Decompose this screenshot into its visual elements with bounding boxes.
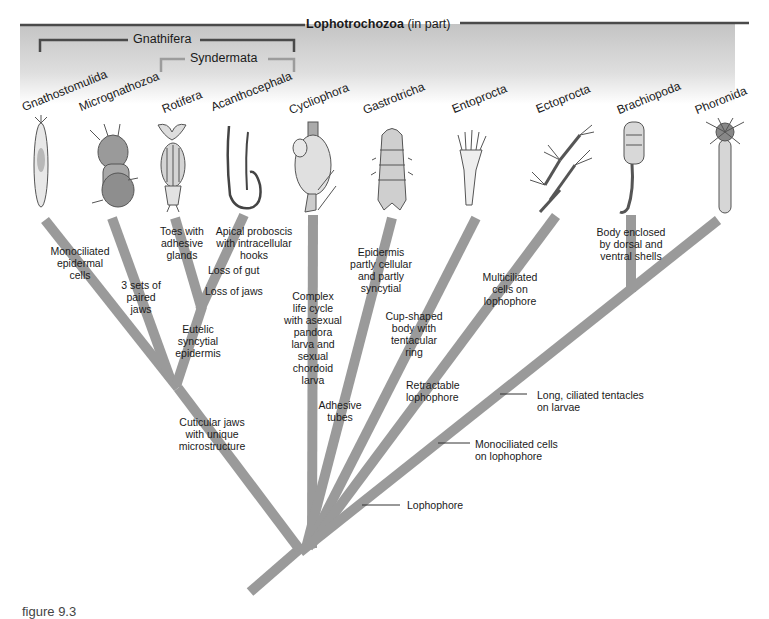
entoprocta-illustration xyxy=(458,130,486,205)
char-long-ciliated-tentacles: Long, ciliated tentacleson larvae xyxy=(537,389,644,413)
phoronida-illustration xyxy=(706,118,744,213)
gnathifera-bracket-left xyxy=(40,40,128,52)
char-cycliophora: Complexlife cyclewith asexualpandoralarv… xyxy=(283,290,343,386)
branch-gnathifera xyxy=(178,388,300,550)
rotifera-illustration xyxy=(158,124,186,212)
syndermata-title: Syndermata xyxy=(190,51,257,65)
char-acanthocephala: Apical probosciswith intracellularhooks xyxy=(213,225,295,261)
char-gastrotricha: Epidermispartly cellularand partlysyncyt… xyxy=(346,246,416,294)
ectoprocta-illustration xyxy=(530,125,594,212)
gnathostomulida-illustration xyxy=(34,115,48,207)
char-retractable-lophophore: Retractablelophophore xyxy=(406,379,460,403)
brachiopoda-illustration xyxy=(620,122,644,213)
char-gnathifera: Cuticular jawswith uniquemicrostructure xyxy=(172,416,252,452)
char-micrognathozoa: 3 sets ofpairedjaws xyxy=(118,279,164,315)
lophotrochozoa-title-bold: Lophotrochozoa xyxy=(306,17,404,31)
lophotrochozoa-title-rest: (in part) xyxy=(404,17,451,31)
branch-root xyxy=(250,546,303,592)
char-loss-gut: Loss of gut xyxy=(208,264,259,276)
gastrotricha-illustration xyxy=(371,129,413,211)
char-entoprocta: Cup-shapedbody withtentacularring xyxy=(384,310,444,358)
figure-caption: figure 9.3 xyxy=(22,604,76,619)
gnathifera-title: Gnathifera xyxy=(133,32,191,46)
char-adhesive-tubes: Adhesivetubes xyxy=(315,399,365,423)
char-loss-jaws: Loss of jaws xyxy=(205,285,263,297)
char-gnathostomulida: Monociliatedepidermalcells xyxy=(44,245,116,281)
char-syndermata: Eutelicsyncytialepidermis xyxy=(172,323,224,359)
organism-illustrations xyxy=(34,115,744,213)
micrognathozoa-illustration xyxy=(90,124,138,207)
lophotrochozoa-title: Lophotrochozoa (in part) xyxy=(306,17,450,31)
syndermata-bracket-right xyxy=(268,59,294,72)
char-rotifera: Toes withadhesiveglands xyxy=(156,225,208,261)
char-brachiopoda: Body enclosedby dorsal andventral shells xyxy=(590,226,672,262)
syndermata-bracket-left xyxy=(161,59,185,72)
char-monociliated-lophophore: Monociliated cellson lophophore xyxy=(475,438,558,462)
cycliophora-illustration xyxy=(293,122,336,212)
char-lophophore: Lophophore xyxy=(407,499,463,511)
acanthocephala-illustration xyxy=(228,126,261,208)
char-ectoprocta: Multiciliatedcells onlophophore xyxy=(476,271,544,307)
